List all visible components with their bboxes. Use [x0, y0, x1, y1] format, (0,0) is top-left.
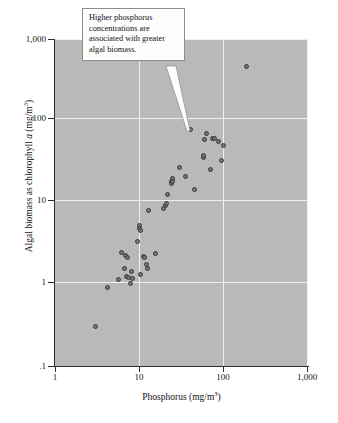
y-axis-title-suffix: ): [24, 100, 34, 103]
data-point: [116, 277, 121, 282]
x-axis-line: [54, 366, 309, 367]
y-tick-100: [48, 118, 54, 119]
data-point: [128, 281, 133, 286]
data-point: [188, 127, 193, 132]
data-point: [125, 255, 130, 260]
data-point: [130, 276, 135, 281]
gridline-y-1: [55, 282, 308, 283]
gridline-y-10: [55, 200, 308, 201]
y-axis-label-10: 10: [37, 196, 46, 205]
scatter-plot-figure: 1,000 100 10 1 .1 1 10 100 1,000 Algal b…: [0, 0, 338, 423]
y-axis-title-mid: (mg/m: [24, 106, 34, 134]
data-point: [142, 255, 147, 260]
data-point: [122, 266, 127, 271]
x-axis-label-1000: 1,000: [290, 373, 324, 382]
gridline-y-100: [55, 118, 308, 119]
data-point: [165, 192, 170, 197]
data-point: [183, 174, 188, 179]
data-point: [138, 228, 143, 233]
x-axis-label-1: 1: [40, 373, 70, 382]
annotation-callout: Higher phosphorus concentrations are ass…: [82, 8, 185, 61]
data-point: [164, 201, 169, 206]
x-axis-title-prefix: Phosphorus (mg/m: [142, 392, 214, 402]
y-axis-label-1000: 1,000: [26, 35, 46, 44]
data-point: [192, 187, 197, 192]
data-point: [145, 266, 150, 271]
data-point: [146, 208, 151, 213]
y-axis-title: Algal biomass as chlorophyll a (mg/m3): [22, 66, 34, 286]
annotation-line-1: Higher phosphorus: [89, 13, 179, 24]
gridline-x-10: [139, 39, 140, 366]
data-point: [138, 272, 143, 277]
annotation-line-4: algal biomass.: [89, 45, 179, 56]
data-point: [201, 153, 206, 158]
data-point: [219, 158, 224, 163]
data-point: [177, 165, 182, 170]
data-point: [153, 251, 158, 256]
y-axis-label-1: 1: [42, 278, 47, 287]
x-axis-label-100: 100: [208, 373, 238, 382]
data-point: [105, 285, 110, 290]
gridline-x-100: [223, 39, 224, 366]
y-axis-title-prefix: Algal biomass as chlorophyll: [24, 139, 34, 252]
data-point: [170, 179, 175, 184]
x-axis-title: Phosphorus (mg/m3): [55, 390, 308, 402]
gridline-x-1000: [307, 39, 308, 366]
data-point: [208, 167, 213, 172]
y-axis-title-superscript: 3: [22, 103, 29, 106]
y-axis-line: [54, 39, 55, 367]
y-tick-0.1: [48, 366, 54, 367]
data-point: [244, 64, 249, 69]
y-tick-1000: [48, 39, 54, 40]
data-point: [93, 324, 98, 329]
y-axis-label-0.1: .1: [39, 362, 46, 371]
y-tick-10: [48, 200, 54, 201]
y-tick-1: [48, 282, 54, 283]
x-axis-label-10: 10: [124, 373, 154, 382]
annotation-line-3: associated with greater: [89, 34, 179, 45]
data-point: [129, 269, 134, 274]
data-point: [221, 143, 226, 148]
x-axis-title-suffix: ): [218, 392, 221, 402]
y-axis-label-100: 100: [33, 114, 47, 123]
plot-area: [55, 39, 308, 366]
data-point: [202, 137, 207, 142]
annotation-line-2: concentrations are: [89, 24, 179, 35]
y-axis-title-italic-a: a: [24, 134, 34, 139]
data-point: [204, 131, 209, 136]
